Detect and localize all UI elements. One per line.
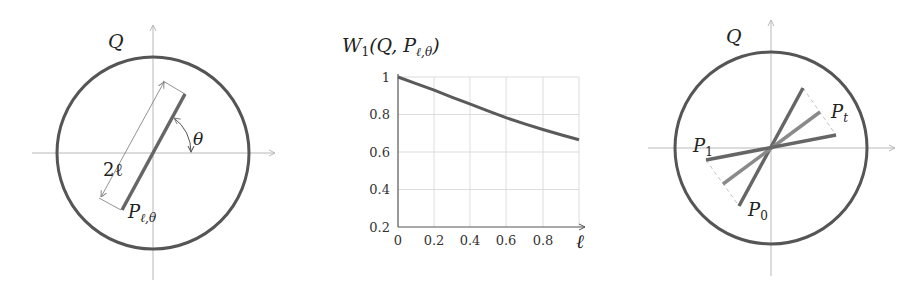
segment-label: Pℓ,θ bbox=[127, 201, 157, 225]
x-tick-0.8: 0.8 bbox=[533, 233, 554, 248]
x-tick-0.4: 0.4 bbox=[460, 233, 481, 248]
angle-arc bbox=[174, 118, 191, 152]
y-tick-0.2: 0.2 bbox=[369, 220, 390, 235]
right-label-q: Q bbox=[726, 25, 742, 47]
y-tick-1: 1 bbox=[382, 70, 390, 85]
dim-tick-top bbox=[163, 81, 185, 94]
chart-grid bbox=[398, 77, 579, 227]
left-label-q: Q bbox=[108, 30, 124, 52]
y-tick-0.4: 0.4 bbox=[369, 182, 390, 197]
angle-label: θ bbox=[193, 129, 203, 149]
y-tick-0.8: 0.8 bbox=[369, 107, 390, 122]
x-tick-0.6: 0.6 bbox=[496, 233, 517, 248]
chart-panel: W1(Q, Pℓ,θ) 1 0.8 0.6 0.4 0.2 0 0.2 0.4 … bbox=[342, 34, 585, 252]
left-panel: Q 2ℓ θ Pℓ,θ bbox=[32, 25, 275, 280]
label-p0: P0 bbox=[747, 199, 768, 223]
y-tick-0.6: 0.6 bbox=[369, 145, 390, 160]
x-tick-0.2: 0.2 bbox=[424, 233, 445, 248]
label-pt: Pt bbox=[830, 101, 848, 125]
right-panel: Q P1 P0 Pt bbox=[648, 20, 895, 276]
w1-curve bbox=[398, 77, 579, 140]
figure-canvas: Q 2ℓ θ Pℓ,θ W1(Q, Pℓ,θ) 1 0 bbox=[0, 0, 922, 285]
dim-tick-bottom bbox=[99, 198, 121, 210]
x-tick-0: 0 bbox=[394, 233, 402, 248]
length-label: 2ℓ bbox=[103, 159, 123, 180]
x-axis-label: ℓ bbox=[576, 230, 584, 252]
chart-title: W1(Q, Pℓ,θ) bbox=[342, 34, 440, 59]
label-p1: P1 bbox=[692, 135, 713, 159]
